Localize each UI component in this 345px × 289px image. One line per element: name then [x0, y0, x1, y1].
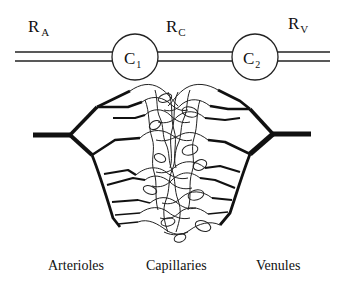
arteriole-tree [33, 91, 150, 227]
circuit-model: RA RC RV C1 C2 [15, 14, 330, 80]
label-venules: Venules [256, 258, 300, 273]
capacitor-c2-node [232, 34, 278, 80]
label-arterioles: Arterioles [48, 258, 104, 273]
microcirculation-diagram: RA RC RV C1 C2 [0, 0, 345, 289]
vascular-network [33, 84, 311, 243]
venule-tree [200, 90, 311, 225]
pipe-rc [158, 52, 232, 61]
label-ra: RA [28, 17, 49, 38]
label-capillaries: Capillaries [146, 258, 207, 273]
capillary-bed [130, 84, 220, 243]
pipe-ra [15, 52, 112, 61]
label-rv: RV [288, 14, 308, 35]
label-rc: RC [166, 17, 186, 38]
pipe-rv [278, 52, 330, 61]
